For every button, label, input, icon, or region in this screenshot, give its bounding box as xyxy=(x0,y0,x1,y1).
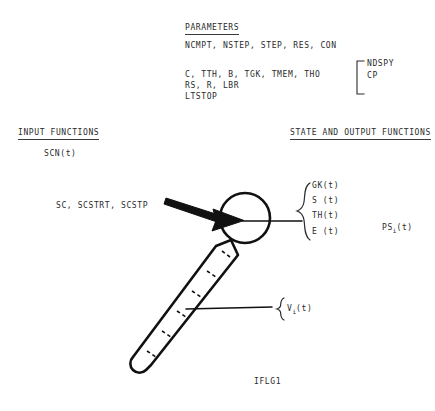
input-functions-heading: INPUT FUNCTIONS xyxy=(18,127,99,140)
parameters-line-4: LTSTOP xyxy=(185,91,218,102)
parameters-line-1: NCMPT, NSTEP, STEP, RES, CON xyxy=(185,40,337,51)
cp-label: CP xyxy=(367,70,378,81)
dendrite-voltage-argument: (t) xyxy=(296,304,312,313)
input-function-sc-group: SC, SCSTRT, SCSTP xyxy=(56,200,148,211)
soma-function-e: E (t) xyxy=(312,226,339,237)
figure-canvas: PARAMETERS NCMPT, NSTEP, STEP, RES, CON … xyxy=(0,0,435,411)
dendrite-outline xyxy=(130,240,238,373)
ndspy-label: NDSPY xyxy=(367,58,394,69)
soma-function-s: S (t) xyxy=(312,195,339,206)
dendrite-voltage-label: Vi(t) xyxy=(287,303,312,317)
soma-functions-brace xyxy=(297,183,310,240)
soma-function-gk: GK(t) xyxy=(312,180,339,191)
ndspy-cp-bracket xyxy=(357,61,364,94)
spike-output-base: PS xyxy=(382,223,393,232)
state-output-functions-heading: STATE AND OUTPUT FUNCTIONS xyxy=(290,127,431,140)
spike-output-argument: (t) xyxy=(396,223,412,232)
parameters-line-3: RS, R, LBR xyxy=(185,80,239,91)
parameters-line-2: C, TTH, B, TGK, TMEM, THO xyxy=(185,69,320,80)
figure-caption: IFLG1 xyxy=(254,376,281,387)
dendrite-voltage-brace xyxy=(277,298,284,320)
parameters-heading: PARAMETERS xyxy=(185,22,239,35)
spike-output-label: PSi(t) xyxy=(382,222,413,236)
dendrite-leader-line xyxy=(186,307,272,309)
soma-function-th: TH(t) xyxy=(312,210,339,221)
input-function-scn: SCN(t) xyxy=(44,148,77,159)
